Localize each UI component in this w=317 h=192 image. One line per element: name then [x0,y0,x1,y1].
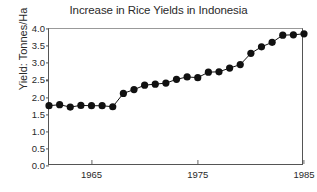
data-point-marker [279,32,286,39]
data-point-marker [56,101,63,108]
data-point-marker [45,102,52,109]
data-point-marker [247,50,254,57]
y-tick-label: 2.5 [32,76,45,86]
y-tick-label: 2.0 [32,93,45,103]
rice-yield-chart: Increase in Rice Yields in Indonesia Yie… [0,0,317,192]
data-point-marker [99,102,106,109]
y-tick-label: 3.0 [32,59,45,69]
data-point-marker [184,73,191,80]
data-point-marker [88,102,95,109]
data-point-marker [215,68,222,75]
data-point-marker [226,64,233,71]
y-tick-label: 1.5 [32,110,45,120]
data-point-marker [109,103,116,110]
data-point-marker [173,76,180,83]
y-tick-label: 0.5 [32,144,45,154]
y-axis-label: Yield: Tonnes/Ha [17,0,29,119]
plot-area: 0.00.51.01.52.02.53.03.54.0 196519751985 [48,28,303,165]
data-point-marker [141,82,148,89]
chart-title: Increase in Rice Yields in Indonesia [0,4,317,16]
data-point-marker [205,69,212,76]
y-tick-label: 3.5 [32,41,45,51]
x-tick-label: 1975 [187,170,208,180]
data-point-marker [300,30,307,37]
data-point-marker [290,31,297,38]
x-tick-label: 1965 [81,170,102,180]
data-point-marker [237,61,244,68]
data-point-marker [194,74,201,81]
x-tick-label: 1985 [293,170,314,180]
data-point-marker [258,43,265,50]
data-point-marker [152,81,159,88]
data-point-marker [120,90,127,97]
data-point-marker [269,39,276,46]
y-tick-label: 0.0 [32,161,45,171]
y-tick-label: 4.0 [32,24,45,34]
data-point-marker [77,102,84,109]
data-series [49,29,304,166]
data-point-marker [130,86,137,93]
data-point-marker [162,80,169,87]
series-line [49,34,304,107]
data-point-marker [67,103,74,110]
y-tick-label: 1.0 [32,127,45,137]
